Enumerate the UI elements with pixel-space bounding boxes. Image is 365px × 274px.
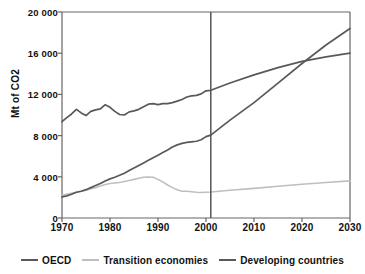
chart-legend: OECDTransition economiesDeveloping count… [0, 250, 365, 270]
legend-label: Developing countries [240, 255, 344, 266]
legend-color-swatch [219, 259, 236, 261]
legend-color-swatch [82, 259, 99, 261]
legend-item[interactable]: Transition economies [82, 255, 208, 266]
co2-emissions-line-chart: Mt of CO2 04 0008 00012 00016 00020 000 … [0, 0, 365, 274]
series-line-developing-countries [62, 28, 350, 196]
series-line-transition-economies [62, 177, 350, 195]
series-line-oecd [62, 53, 350, 121]
legend-label: Transition economies [103, 255, 208, 266]
legend-item[interactable]: OECD [21, 255, 71, 266]
legend-color-swatch [21, 259, 38, 261]
legend-item[interactable]: Developing countries [219, 255, 344, 266]
plot-area [0, 0, 365, 274]
legend-label: OECD [42, 255, 71, 266]
